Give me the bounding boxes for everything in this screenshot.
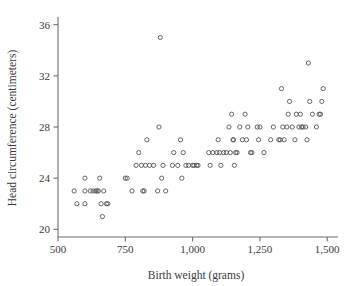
- scatter-point: [290, 125, 294, 129]
- scatter-point: [305, 138, 309, 142]
- scatter-point: [130, 189, 134, 193]
- scatter-point: [243, 112, 247, 116]
- scatter-point: [310, 112, 314, 116]
- y-tick-label: 28: [39, 121, 51, 133]
- scatter-point: [279, 87, 283, 91]
- scatter-point: [320, 99, 324, 103]
- scatter-point: [208, 163, 212, 167]
- scatter-point: [232, 163, 236, 167]
- scatter-point: [258, 125, 262, 129]
- x-tick-label: 1,000: [180, 243, 205, 255]
- scatter-point: [100, 214, 104, 218]
- scatter-point: [298, 112, 302, 116]
- scatter-point: [75, 202, 79, 206]
- scatter-point: [137, 150, 141, 154]
- scatter-point: [186, 163, 190, 167]
- scatter-point: [287, 99, 291, 103]
- scatter-point: [286, 112, 290, 116]
- scatter-point: [293, 138, 297, 142]
- scatter-point: [238, 125, 242, 129]
- scatter-point: [151, 163, 155, 167]
- scatter-point: [246, 125, 250, 129]
- scatter-point: [211, 150, 215, 154]
- scatter-plot-figure: 5007501,0001,2501,500 2024283236 Birth w…: [0, 0, 358, 286]
- scatter-point: [224, 150, 228, 154]
- scatter-point: [217, 150, 221, 154]
- x-tick-label: 750: [117, 243, 134, 255]
- scatter-point: [228, 150, 232, 154]
- scatter-point: [282, 138, 286, 142]
- scatter-point: [308, 99, 312, 103]
- scatter-point: [83, 202, 87, 206]
- y-tick-labels: 2024283236: [39, 19, 51, 236]
- scatter-point: [98, 176, 102, 180]
- scatter-point: [240, 138, 244, 142]
- scatter-point: [139, 163, 143, 167]
- scatter-point: [294, 112, 298, 116]
- scatter-point: [321, 87, 325, 91]
- scatter-point: [176, 163, 180, 167]
- scatter-point: [156, 189, 160, 193]
- scatter-point: [158, 35, 162, 39]
- scatter-point: [180, 176, 184, 180]
- scatter-point: [219, 163, 223, 167]
- scatter-point: [160, 176, 164, 180]
- x-tick-label: 500: [50, 243, 67, 255]
- y-axis-title: Head circumference (centimeters): [6, 50, 19, 207]
- scatter-point: [269, 138, 273, 142]
- scatter-point: [256, 138, 260, 142]
- scatter-point: [170, 163, 174, 167]
- scatter-point: [306, 61, 310, 65]
- scatter-point: [161, 163, 165, 167]
- x-axis-title: Birth weight (grams): [148, 269, 245, 282]
- scatter-point: [83, 176, 87, 180]
- scatter-point: [102, 189, 106, 193]
- scatter-point: [244, 138, 248, 142]
- scatter-point: [164, 189, 168, 193]
- y-tick-label: 32: [39, 70, 50, 82]
- scatter-point: [83, 189, 87, 193]
- scatter-point: [99, 202, 103, 206]
- data-points-group: [72, 35, 325, 218]
- axes-group: [58, 17, 338, 237]
- scatter-point: [145, 138, 149, 142]
- scatter-point: [227, 125, 231, 129]
- scatter-point: [230, 112, 234, 116]
- y-tick-label: 36: [39, 19, 51, 31]
- x-tick-label: 1,500: [315, 243, 340, 255]
- scatter-point: [172, 150, 176, 154]
- scatter-point: [72, 189, 76, 193]
- scatter-point: [181, 150, 185, 154]
- y-tick-label: 24: [39, 172, 51, 184]
- scatter-point: [304, 125, 308, 129]
- scatter-point: [262, 150, 266, 154]
- scatter-point: [281, 125, 285, 129]
- x-tick-label: 1,250: [248, 243, 273, 255]
- scatter-point: [285, 125, 289, 129]
- plot-canvas: 5007501,0001,2501,500 2024283236 Birth w…: [0, 0, 358, 286]
- scatter-point: [314, 125, 318, 129]
- scatter-point: [207, 150, 211, 154]
- scatter-point: [216, 138, 220, 142]
- x-tick-labels: 5007501,0001,2501,500: [50, 243, 340, 255]
- y-tick-label: 20: [39, 223, 51, 235]
- scatter-point: [271, 125, 275, 129]
- scatter-point: [157, 125, 161, 129]
- ticks-group: [54, 25, 328, 242]
- scatter-point: [147, 163, 151, 167]
- scatter-point: [134, 163, 138, 167]
- scatter-point: [143, 163, 147, 167]
- scatter-point: [178, 138, 182, 142]
